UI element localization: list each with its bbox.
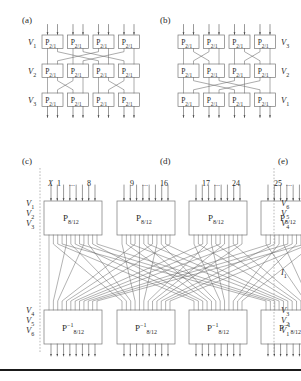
panel-c-shuffle-wire bbox=[62, 235, 266, 310]
panel-c-x-label: X bbox=[48, 180, 53, 188]
panel-c-shuffle-wire bbox=[242, 235, 301, 310]
panel-c-shuffle-wire bbox=[53, 235, 66, 310]
panel-c-range-end: 24 bbox=[232, 180, 240, 188]
panel-b-box-label: P2/1 bbox=[258, 97, 269, 107]
panel-c-range-end: 8 bbox=[87, 180, 91, 188]
panel-a-wire bbox=[109, 78, 125, 94]
panel-b-box-label: P2/1 bbox=[232, 68, 243, 78]
panel-a-box-label: P2/1 bbox=[96, 97, 107, 107]
panel-c-range-start: 1 bbox=[57, 180, 61, 188]
panel-a-wire bbox=[58, 49, 99, 65]
panel-b-row-label-V3: V3 bbox=[281, 38, 289, 49]
panel-c-bottom-box-label: P−18/12 bbox=[62, 322, 84, 335]
panel-a-letter: (a) bbox=[22, 16, 32, 25]
panel-a-box-label: P2/1 bbox=[71, 68, 82, 78]
panel-a-box-label: P2/1 bbox=[96, 68, 107, 78]
panel-a-box-label: P2/1 bbox=[71, 39, 82, 49]
panel-c-shuffle-wire bbox=[88, 235, 270, 310]
panel-b-box-label: P2/1 bbox=[181, 68, 192, 78]
panel-b-box-label: P2/1 bbox=[232, 39, 243, 49]
panel-a-box-label: P2/1 bbox=[122, 97, 133, 107]
panel-b-box-label: P2/1 bbox=[207, 68, 218, 78]
panel-c-top-box-label: P8/12 bbox=[136, 214, 152, 225]
panel-e-letter: (e) bbox=[278, 157, 288, 166]
panel-b-wire bbox=[194, 78, 235, 94]
panel-c-range-start: 9 bbox=[130, 180, 134, 188]
panel-a-box-label: P2/1 bbox=[71, 97, 82, 107]
panel-a-box-label: P2/1 bbox=[45, 39, 56, 49]
panel-c-bottom-box-label: P−18/12 bbox=[135, 322, 157, 335]
panel-c-shuffle-wire bbox=[97, 235, 275, 310]
panel-c-range-start: 25 bbox=[274, 180, 282, 188]
panel-a-box-label: P2/1 bbox=[45, 97, 56, 107]
panel-d-letter: (d) bbox=[160, 157, 171, 166]
panel-c-right-label-V1: V1 bbox=[281, 326, 289, 337]
panel-b-wire bbox=[219, 78, 260, 94]
panel-b-letter: (b) bbox=[160, 16, 171, 25]
panel-a-row-label-V1: V1 bbox=[28, 38, 36, 49]
panel-c-left-label-V3: V3 bbox=[26, 219, 34, 230]
panel-b-box-label: P2/1 bbox=[181, 39, 192, 49]
panel-a-wire bbox=[83, 49, 124, 65]
panel-c-top-box-label: P8/12 bbox=[63, 214, 79, 225]
panel-c-range-dots: ... bbox=[214, 180, 220, 188]
panel-b-row-label-V1: V1 bbox=[281, 96, 289, 107]
panel-b-row-label-V2: V2 bbox=[281, 67, 289, 78]
panel-a-row-label-V2: V2 bbox=[28, 67, 36, 78]
panel-b-wire bbox=[245, 49, 261, 65]
panel-c-top-box-label: P8/12 bbox=[208, 214, 224, 225]
panel-c-range-dots: ... bbox=[286, 180, 292, 188]
panel-a-box-label: P2/1 bbox=[122, 68, 133, 78]
panel-c-shuffle-wire bbox=[166, 235, 288, 310]
panel-b-box-label: P2/1 bbox=[258, 39, 269, 49]
panel-c-range-end: 16 bbox=[160, 180, 168, 188]
panel-c-range-start: 17 bbox=[202, 180, 210, 188]
panel-c-right-label-V4: V4 bbox=[281, 219, 289, 230]
panel-b-box-label: P2/1 bbox=[207, 97, 218, 107]
panel-b-box-label: P2/1 bbox=[181, 97, 192, 107]
panel-a-box-label: P2/1 bbox=[45, 68, 56, 78]
panel-b-box-label: P2/1 bbox=[258, 68, 269, 78]
panel-c-left-label-V6: V6 bbox=[26, 326, 34, 337]
panel-c-letter: (c) bbox=[22, 157, 32, 166]
panel-a-box-label: P2/1 bbox=[96, 39, 107, 49]
panel-b-wire bbox=[194, 49, 210, 65]
panel-c-range-dots: ... bbox=[69, 180, 75, 188]
panel-b-box-label: P2/1 bbox=[232, 97, 243, 107]
panel-b-box-label: P2/1 bbox=[207, 39, 218, 49]
panel-a-box-label: P2/1 bbox=[122, 39, 133, 49]
panel-c-shuffle-wire bbox=[75, 235, 203, 310]
panel-a-row-label-V3: V3 bbox=[28, 96, 36, 107]
panel-c-bottom-box-label: P−18/12 bbox=[207, 322, 229, 335]
panel-c-right-label-I1: I1 bbox=[281, 268, 287, 279]
panel-a-wire bbox=[58, 78, 74, 94]
panel-c-range-dots: ... bbox=[142, 180, 148, 188]
panel-c-shuffle-wire bbox=[58, 235, 194, 310]
